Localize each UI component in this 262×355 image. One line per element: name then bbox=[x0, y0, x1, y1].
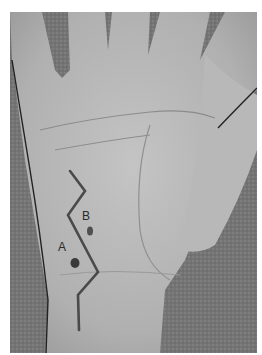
label-b: B bbox=[82, 209, 90, 223]
palm-photograph bbox=[10, 12, 257, 353]
marker-dot-a bbox=[71, 258, 80, 268]
hand-illustration bbox=[10, 12, 257, 353]
label-a: A bbox=[58, 240, 66, 254]
marker-dot-b bbox=[87, 227, 93, 236]
